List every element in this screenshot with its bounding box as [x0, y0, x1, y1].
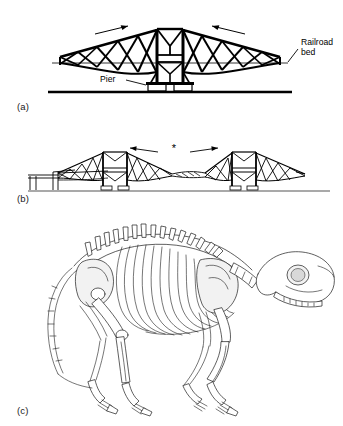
right-cantilever-arm [183, 30, 280, 74]
panel-a-cantilever-span: Railroad bed Pier [0, 0, 343, 128]
panel-c-drawing [0, 216, 343, 426]
panel-a-drawing: Railroad bed Pier [0, 0, 343, 128]
railroad-bed-label-line1: Railroad [301, 37, 333, 47]
tail [48, 268, 77, 374]
pier-blocks [146, 82, 194, 91]
railroad-bed-label-line2: bed [301, 47, 316, 57]
railroad-bed-callout: Railroad bed [288, 37, 333, 62]
right-tower [230, 152, 258, 190]
left-cantilever-arm [60, 30, 157, 74]
pelvis [75, 259, 113, 307]
forelimb-near [207, 308, 238, 416]
right-span-arrow [190, 146, 218, 152]
right-tower-arms [205, 153, 305, 181]
panel-label-b: (b) [17, 193, 29, 204]
pier-label: Pier [100, 74, 115, 84]
pier-callout: Pier [100, 74, 146, 85]
panel-label-c: (c) [17, 405, 29, 416]
panel-c-skeleton [0, 216, 343, 426]
suspended-span [172, 172, 205, 178]
figure-root: Railroad bed Pier * [0, 0, 343, 426]
skull [256, 252, 334, 307]
left-tower-arms [58, 153, 172, 181]
panel-b-full-bridge: * [0, 128, 343, 220]
right-load-arrow [212, 25, 245, 34]
central-tower [150, 29, 190, 84]
forelimb-far [183, 312, 211, 411]
left-span-arrow [130, 146, 158, 152]
tail-tip [58, 374, 92, 388]
panel-b-drawing: * [0, 128, 343, 220]
suspended-span-marker: * [172, 142, 177, 154]
panel-label-a: (a) [17, 101, 29, 112]
left-load-arrow [95, 25, 128, 34]
